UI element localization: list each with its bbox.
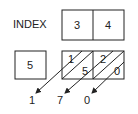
result-digit: 1 [25,94,39,106]
lattice-tens: 1 [64,53,78,65]
lattice-tens: 2 [96,53,110,65]
result-digit: 7 [53,94,67,106]
multiplicand-digit: 4 [101,19,115,31]
result-digit: 0 [80,94,94,106]
lattice-ones: 0 [110,65,124,77]
multiplier-digit: 5 [23,59,37,71]
index-label: INDEX [13,18,47,30]
lattice-ones: 5 [78,65,92,77]
multiplicand-digit: 3 [70,19,84,31]
